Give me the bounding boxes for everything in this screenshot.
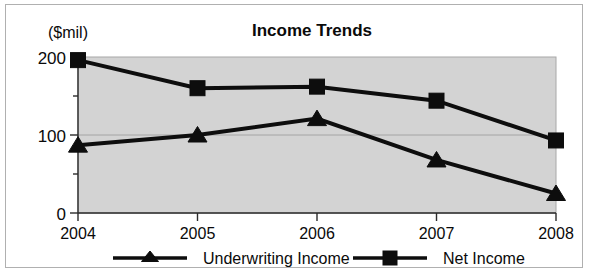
- square-marker: [310, 79, 325, 94]
- y-tick-label-100: 100: [38, 127, 66, 146]
- x-tick-label-2007: 2007: [419, 225, 455, 242]
- y-axis-unit-label: ($mil): [48, 24, 88, 41]
- income-trends-chart: ($mil) Income Trends 200 100 0 2004 2005…: [0, 0, 602, 278]
- x-tick-label-2008: 2008: [538, 225, 574, 242]
- legend-label-underwriting-income: Underwriting Income: [203, 250, 350, 267]
- chart-legend: Underwriting Income Net Income: [113, 250, 525, 267]
- x-tick-label-2004: 2004: [60, 225, 96, 242]
- y-tick-label-0: 0: [57, 205, 66, 224]
- square-marker: [190, 81, 205, 96]
- square-marker: [429, 93, 444, 108]
- square-marker: [383, 251, 397, 265]
- legend-label-net-income: Net Income: [443, 250, 525, 267]
- x-tick-label-2006: 2006: [299, 225, 335, 242]
- square-marker: [71, 53, 86, 68]
- chart-title: Income Trends: [252, 21, 372, 40]
- square-marker: [549, 133, 564, 148]
- x-tick-label-2005: 2005: [180, 225, 216, 242]
- y-tick-label-200: 200: [38, 49, 66, 68]
